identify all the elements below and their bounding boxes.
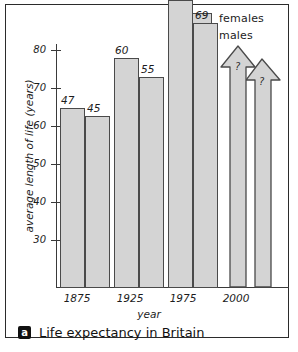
arrow-value-females-2000: ? (235, 61, 240, 72)
arrow-value-males-2000: ? (259, 76, 264, 87)
up-arrow-icon-males (246, 57, 284, 288)
caption-marker: a (18, 326, 31, 339)
bar-females-1875 (60, 108, 85, 288)
figure-caption: a Life expectancy in Britain (18, 325, 204, 340)
x-tick-label-1925: 1925 (100, 292, 160, 304)
arrow-males-2000: ? (246, 57, 284, 288)
bar-females-1975-body (168, 0, 193, 288)
chart-plot-area: females males average length of life (ye… (0, 0, 298, 352)
bar-value-males-1975: 69 (195, 9, 208, 21)
bar-females-1925 (114, 58, 139, 288)
y-tick-label-30: 30 (20, 234, 46, 245)
x-tick-label-2000: 2000 (206, 292, 266, 304)
x-tick-label-1875: 1875 (47, 292, 107, 304)
bar-value-females-1875: 47 (61, 94, 74, 106)
legend-label-females: females (219, 12, 264, 25)
y-axis-title: average length of life (years) (23, 66, 35, 246)
bar-males-1925 (139, 77, 164, 288)
y-axis-line (56, 44, 57, 287)
caption-text: Life expectancy in Britain (39, 325, 204, 340)
bar-value-males-1875: 45 (87, 102, 100, 114)
y-tick-label-50: 50 (20, 158, 46, 169)
y-tick-label-60: 60 (20, 120, 46, 131)
figure-life-expectancy: females males average length of life (ye… (0, 0, 298, 352)
legend-label-males: males (219, 29, 253, 42)
y-tick-80 (51, 50, 61, 51)
y-tick-label-70: 70 (20, 82, 46, 93)
x-axis-title: year (0, 308, 298, 320)
y-tick-label-80: 80 (20, 44, 46, 55)
bar-value-females-1925: 60 (115, 44, 128, 56)
bar-males-1875 (85, 116, 110, 288)
y-tick-70 (51, 88, 61, 89)
x-tick-label-1975: 1975 (153, 292, 213, 304)
y-tick-label-40: 40 (20, 196, 46, 207)
bar-males-1975 (193, 23, 218, 288)
bar-value-males-1925: 55 (141, 63, 154, 75)
